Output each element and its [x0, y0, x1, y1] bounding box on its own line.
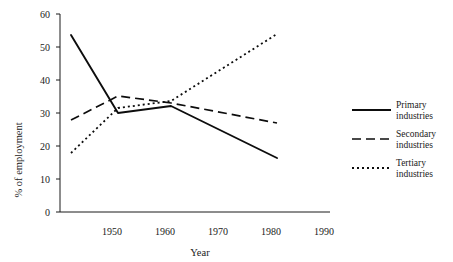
y-tick-label: 30 [40, 108, 50, 119]
y-tick-label: 20 [40, 141, 50, 152]
legend-item-secondary: Secondary industries [352, 129, 436, 150]
x-tick-label: 1950 [102, 226, 122, 237]
y-tick-label: 40 [40, 75, 50, 86]
line-chart: 60 50 40 30 20 10 0 1950 1960 1970 1980 … [0, 0, 453, 262]
legend-label-primary-line1: Primary [396, 100, 427, 110]
series-line-primary [71, 35, 277, 158]
x-tick-label: 1970 [208, 226, 228, 237]
x-tick-label: 1990 [314, 226, 334, 237]
legend-label-secondary-line1: Secondary [396, 129, 436, 139]
y-tick-label: 50 [40, 42, 50, 53]
x-axis-title: Year [190, 247, 210, 258]
y-axis-tick-labels: 60 50 40 30 20 10 0 [40, 9, 50, 218]
x-tick-label: 1960 [155, 226, 175, 237]
legend-label-primary-line2: industries [396, 111, 433, 121]
legend-item-primary: Primary industries [352, 100, 433, 121]
legend-label-secondary-line2: industries [396, 140, 433, 150]
y-tick-label: 0 [45, 207, 50, 218]
legend-label-tertiary-line1: Tertiary [396, 158, 426, 168]
y-axis-ticks [56, 14, 60, 212]
chart-container: 60 50 40 30 20 10 0 1950 1960 1970 1980 … [0, 0, 453, 262]
y-tick-label: 10 [40, 174, 50, 185]
legend-label-tertiary-line2: industries [396, 169, 433, 179]
legend-item-tertiary: Tertiary industries [352, 158, 433, 179]
x-axis-tick-labels: 1950 1960 1970 1980 1990 [102, 226, 334, 237]
chart-legend: Primary industries Secondary industries … [352, 100, 436, 179]
y-tick-label: 60 [40, 9, 50, 20]
x-tick-label: 1980 [261, 226, 281, 237]
series-line-tertiary [71, 34, 277, 153]
y-axis-title: % of employment [13, 122, 24, 197]
